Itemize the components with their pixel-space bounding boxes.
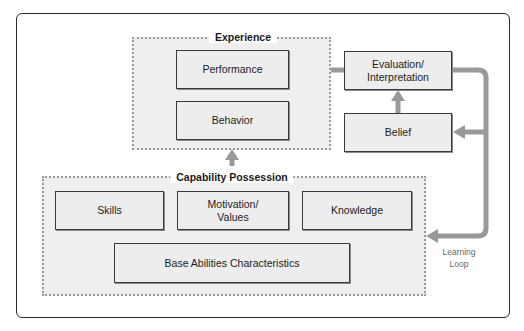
knowledge-text: Knowledge	[331, 204, 383, 217]
base-abilities-box: Base Abilities Characteristics	[114, 243, 350, 283]
learning-loop-label-line2: Loop	[434, 258, 484, 270]
behavior-text: Behavior	[212, 114, 253, 127]
motivation-text-line1: Motivation/	[208, 198, 259, 211]
belief-box: Belief	[344, 113, 452, 152]
learning-loop-label: Learning Loop	[434, 246, 484, 270]
learning-loop-path	[436, 70, 486, 236]
evaluation-box: Evaluation/ Interpretation	[344, 51, 452, 90]
behavior-box: Behavior	[176, 101, 289, 140]
belief-arrowhead	[453, 125, 465, 139]
belief-text: Belief	[385, 126, 411, 139]
capability-label: Capability Possession	[170, 171, 293, 183]
motivation-text-line2: Values	[217, 211, 248, 224]
experience-arrowhead	[225, 149, 239, 160]
performance-box: Performance	[176, 50, 289, 89]
learning-loop-label-line1: Learning	[434, 246, 484, 258]
performance-text: Performance	[202, 63, 262, 76]
skills-box: Skills	[55, 191, 164, 230]
knowledge-box: Knowledge	[302, 191, 412, 230]
evaluation-text-line2: Interpretation	[367, 71, 429, 84]
base-abilities-text: Base Abilities Characteristics	[165, 257, 300, 270]
experience-label: Experience	[209, 31, 277, 43]
skills-text: Skills	[97, 204, 122, 217]
learning-loop-arrowhead	[426, 229, 438, 243]
evaluation-arrowhead	[391, 90, 405, 101]
motivation-box: Motivation/ Values	[177, 191, 289, 230]
evaluation-text-line1: Evaluation/	[372, 58, 424, 71]
